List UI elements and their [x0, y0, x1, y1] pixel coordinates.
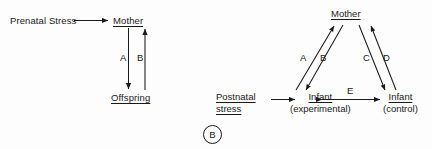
edge-label-e: E: [347, 85, 353, 96]
node-infant-control-line1: Infant: [383, 91, 418, 103]
node-mother-right: Mother: [331, 8, 361, 20]
edge-label-a-right: A: [300, 52, 306, 63]
edge-label-c-right: C: [363, 52, 370, 63]
node-prenatal-stress: Prenatal Stress: [10, 15, 76, 26]
node-mother-left: Mother: [113, 15, 143, 26]
node-infant-experimental-line1: Infant: [290, 91, 351, 103]
node-infant-control-line2: (control): [383, 103, 418, 115]
node-mother-right-text: Mother: [331, 8, 361, 20]
diagram-figure: Prenatal Stress Mother Offspring A B Mot…: [0, 0, 432, 149]
node-postnatal-stress: Postnatal stress: [216, 91, 256, 114]
edge-label-a-left: A: [120, 52, 126, 63]
edge-label-b-right: B: [320, 52, 326, 63]
edge-label-b-left: B: [137, 52, 143, 63]
node-infant-control: Infant (control): [383, 91, 418, 114]
node-infant-experimental-line2: (experimental): [290, 103, 351, 115]
edge-label-d-right: D: [383, 52, 390, 63]
node-postnatal-stress-line2: stress: [216, 103, 256, 115]
node-infant-experimental: Infant (experimental): [290, 91, 351, 114]
panel-tag-b: B: [203, 125, 222, 144]
node-postnatal-stress-line1: Postnatal: [216, 91, 256, 103]
node-offspring: Offspring: [111, 92, 150, 103]
